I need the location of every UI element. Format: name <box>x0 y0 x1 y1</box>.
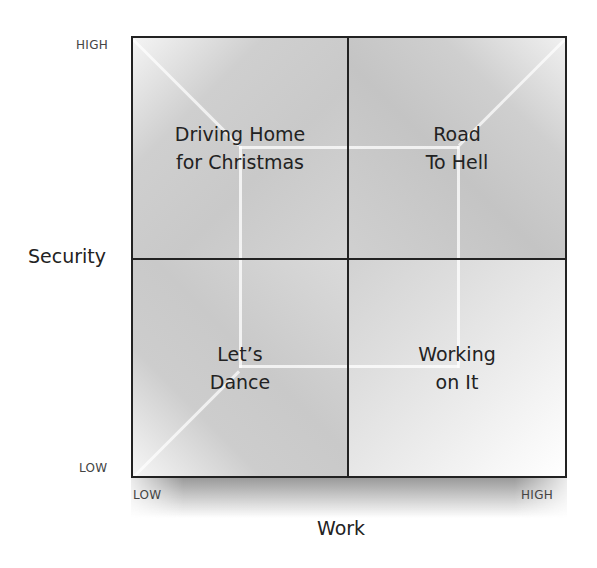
x-axis-high-label: HIGH <box>521 488 553 502</box>
x-axis-title: Work <box>317 517 365 539</box>
label-line: To Hell <box>357 148 557 176</box>
quadrant-label-bottom-right: Working on It <box>357 340 557 396</box>
label-line: Working <box>357 340 557 368</box>
y-axis-low-label: LOW <box>79 461 107 475</box>
y-axis-title: Security <box>28 245 106 267</box>
label-line: Road <box>357 120 557 148</box>
y-axis-high-label: HIGH <box>76 38 108 52</box>
horizontal-divider <box>133 258 565 260</box>
quadrant-label-top-right: Road To Hell <box>357 120 557 176</box>
quadrant-label-top-left: Driving Home for Christmas <box>140 120 340 176</box>
quadrant-label-bottom-left: Let’s Dance <box>140 340 340 396</box>
vertical-divider <box>347 38 349 476</box>
bottom-shadow <box>131 478 567 518</box>
x-axis-low-label: LOW <box>133 488 161 502</box>
label-line: on It <box>357 368 557 396</box>
label-line: Driving Home <box>140 120 340 148</box>
quadrant-matrix: Driving Home for Christmas Road To Hell … <box>131 36 567 478</box>
label-line: for Christmas <box>140 148 340 176</box>
label-line: Let’s <box>140 340 340 368</box>
label-line: Dance <box>140 368 340 396</box>
